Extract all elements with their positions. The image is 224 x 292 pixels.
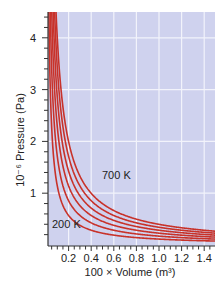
y-tick-label: 2 [30,135,36,147]
x-tick-label: 1.0 [151,252,166,264]
y-tick-label: 3 [30,84,36,96]
x-tick-label: 0.6 [106,252,121,264]
plot-background [48,12,215,246]
x-tick-label: 1.4 [197,252,212,264]
x-tick-label: 0.8 [129,252,144,264]
annotation-200k: 200 K [52,218,81,230]
x-axis-label: 100 × Volume (m³) [85,266,176,278]
x-tick-label: 1.2 [174,252,189,264]
isotherm-chart: 0.20.40.60.81.01.21.4 1234 200 K 700 K 1… [0,0,224,292]
x-axis-ticks: 0.20.40.60.81.01.21.4 [52,246,212,264]
x-tick-label: 0.2 [61,252,76,264]
y-tick-label: 4 [30,32,36,44]
x-tick-label: 0.4 [84,252,99,264]
y-axis-ticks: 1234 [30,17,48,235]
annotation-700k: 700 K [102,169,131,181]
y-tick-label: 1 [30,187,36,199]
y-axis-label: 10⁻⁶ Pressure (Pa) [14,93,26,187]
plot-area [48,0,218,246]
